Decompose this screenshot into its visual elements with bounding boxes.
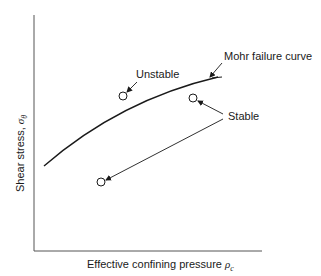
- x-axis-label-text: Effective confining pressure: [87, 258, 225, 270]
- x-axis-label: Effective confining pressure ρc: [87, 258, 234, 273]
- y-axis-label: Shear stress, σθ: [14, 115, 29, 192]
- unstable-arrow: [127, 82, 137, 92]
- stable-point-lower: [97, 178, 105, 186]
- curve-arrow: [210, 63, 222, 77]
- unstable-label: Unstable: [136, 68, 179, 80]
- stable-label: Stable: [228, 110, 259, 122]
- y-axis-label-text: Shear stress,: [14, 124, 26, 192]
- x-axis-subscript: c: [230, 264, 234, 273]
- stable-arrow-lower: [106, 119, 223, 180]
- mohr-failure-curve: [44, 77, 218, 166]
- unstable-point: [119, 92, 127, 100]
- y-axis-subscript: θ: [20, 115, 29, 119]
- curve-end-tick: [212, 77, 222, 78]
- mohr-diagram: Unstable Mohr failure curve Stable Effec…: [0, 0, 321, 276]
- stable-point-upper: [189, 94, 197, 102]
- stable-arrow-upper: [198, 101, 223, 114]
- curve-label: Mohr failure curve: [224, 50, 312, 62]
